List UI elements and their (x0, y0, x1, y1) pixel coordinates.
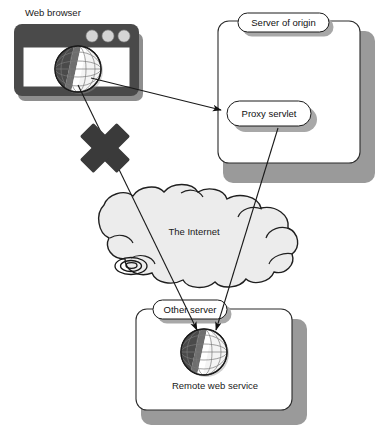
diagram-canvas: Server of origin Proxy servlet (0, 0, 386, 429)
proxy-servlet-diagram: Server of origin Proxy servlet (0, 0, 386, 429)
proxy-servlet-label: Proxy servlet (242, 108, 297, 119)
server-of-origin-group[interactable]: Server of origin Proxy servlet (218, 13, 375, 183)
browser-dot-2[interactable] (102, 30, 114, 42)
other-server-label: Other server (164, 304, 217, 315)
proxy-servlet-node[interactable]: Proxy servlet (227, 101, 317, 132)
server-of-origin-box[interactable] (218, 21, 360, 163)
browser-dot-3[interactable] (118, 30, 130, 42)
server-of-origin-pill[interactable]: Server of origin (238, 13, 334, 37)
web-browser-label: Web browser (25, 7, 81, 18)
x-cross-icon (68, 111, 142, 185)
internet-label: The Internet (168, 226, 220, 237)
server-of-origin-label: Server of origin (251, 17, 315, 28)
internet-cloud-group[interactable]: The Internet (99, 185, 298, 288)
other-server-group[interactable]: Other server Remote web service (136, 300, 307, 425)
remote-web-service-label: Remote web service (172, 380, 258, 391)
browser-dot-1[interactable] (86, 30, 98, 42)
